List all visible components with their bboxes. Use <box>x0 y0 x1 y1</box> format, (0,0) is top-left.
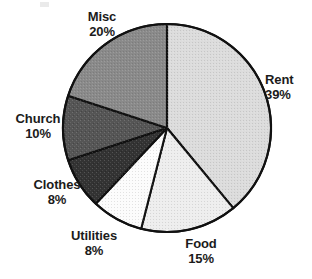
slice-label-food-name: Food <box>175 236 227 251</box>
slice-label-misc-name: Misc <box>73 9 131 24</box>
pie-chart-figure: Misc 20% Rent 39% Food 15% Utilities 8% … <box>0 0 312 279</box>
slice-label-rent: Rent 39% <box>265 72 311 103</box>
slice-label-misc-value: 20% <box>73 24 131 39</box>
slice-label-clothes-name: Clothes <box>28 177 86 192</box>
slice-label-church-value: 10% <box>9 126 67 141</box>
slice-label-clothes-value: 8% <box>28 192 86 207</box>
slice-label-rent-value: 39% <box>265 87 311 102</box>
slice-label-utilities: Utilities 8% <box>64 228 124 259</box>
slice-label-utilities-value: 8% <box>64 243 124 258</box>
slice-label-church: Church 10% <box>9 111 67 142</box>
slice-label-church-name: Church <box>9 111 67 126</box>
slice-label-rent-name: Rent <box>265 72 311 87</box>
slice-label-food-value: 15% <box>175 251 227 266</box>
slice-label-misc: Misc 20% <box>73 9 131 40</box>
slice-label-food: Food 15% <box>175 236 227 267</box>
slice-label-clothes: Clothes 8% <box>28 177 86 208</box>
slice-label-utilities-name: Utilities <box>64 228 124 243</box>
